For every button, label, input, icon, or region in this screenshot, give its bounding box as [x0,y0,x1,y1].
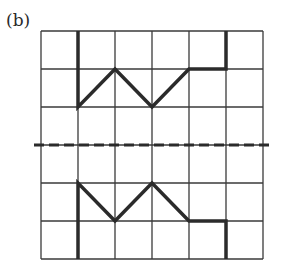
grid-diagram [0,0,287,267]
